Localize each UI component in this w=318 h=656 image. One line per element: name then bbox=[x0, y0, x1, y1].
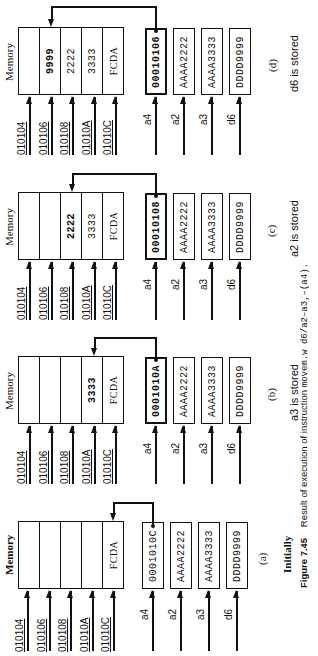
register-arrow bbox=[155, 97, 157, 155]
pointer-line bbox=[155, 6, 157, 31]
address-label: 01010A bbox=[81, 450, 92, 484]
memory-value: FCDA bbox=[108, 541, 119, 570]
address-arrow bbox=[51, 262, 53, 320]
arrow-head-icon bbox=[110, 513, 116, 521]
register-arrow bbox=[183, 97, 185, 155]
pointer-line bbox=[94, 337, 156, 339]
register-arrow bbox=[239, 262, 241, 320]
address-arrow bbox=[72, 97, 74, 155]
memory-cell-01010A: 3333 bbox=[82, 193, 103, 259]
register-label: a2 bbox=[167, 609, 178, 620]
address-arrow bbox=[72, 262, 74, 320]
memory-value: 3333 bbox=[87, 377, 98, 403]
pointer-line bbox=[155, 173, 157, 196]
memory-cell-010106 bbox=[40, 522, 61, 588]
memory-cell-010108: 2222 bbox=[61, 193, 82, 259]
register-value: AAAA2222 bbox=[179, 364, 190, 416]
register-d6: DDDD9999 bbox=[229, 357, 251, 424]
address-label: 010108 bbox=[59, 287, 70, 320]
address-label: 010108 bbox=[57, 619, 68, 652]
memory-value: FCDA bbox=[108, 47, 119, 76]
figure-caption-text: Result of execution of instruction bbox=[298, 390, 309, 527]
memory-value: 2222 bbox=[66, 48, 77, 74]
register-value: AAAA2222 bbox=[179, 35, 190, 87]
register-label: a2 bbox=[170, 279, 181, 290]
register-value: AAAA3333 bbox=[204, 529, 215, 581]
register-a2: AAAA2222 bbox=[173, 357, 195, 424]
memory-cell-010104 bbox=[19, 28, 40, 94]
register-arrow bbox=[239, 426, 241, 484]
memory-title: Memory bbox=[3, 43, 15, 81]
arrow-head-icon bbox=[69, 184, 75, 192]
register-value: DDDD9999 bbox=[232, 529, 243, 581]
memory-block: 9999 2222 3333 FCDA bbox=[18, 27, 124, 95]
address-label: 010104 bbox=[16, 122, 27, 155]
address-arrow bbox=[49, 591, 51, 651]
memory-value: 3333 bbox=[87, 213, 98, 239]
address-arrow bbox=[113, 591, 115, 651]
memory-cell-01010C: FCDA bbox=[103, 357, 123, 423]
register-value: DDDD9999 bbox=[235, 364, 246, 416]
register-value: 00010106 bbox=[151, 35, 162, 87]
address-label: 01010A bbox=[81, 286, 92, 320]
memory-cell-01010A: 3333 bbox=[82, 28, 103, 94]
register-arrow bbox=[211, 426, 213, 484]
arrow-head-icon bbox=[91, 348, 97, 356]
address-arrow bbox=[27, 591, 29, 651]
register-value: DDDD9999 bbox=[235, 35, 246, 87]
address-label: 01010C bbox=[102, 449, 113, 484]
register-value: AAAA3333 bbox=[207, 200, 218, 252]
register-arrow bbox=[208, 591, 210, 651]
register-value: 0001010A bbox=[151, 364, 162, 416]
register-value: 0001010C bbox=[148, 529, 159, 581]
register-a4: 0001010A bbox=[145, 357, 167, 424]
register-label: a3 bbox=[198, 279, 209, 290]
register-label: a2 bbox=[170, 443, 181, 454]
register-a3: AAAA3333 bbox=[201, 357, 223, 424]
register-a2: AAAA2222 bbox=[173, 28, 195, 95]
address-label: 010106 bbox=[38, 287, 49, 320]
panel-a: Memory FCDA 0001010C AAAA2222 AAAA3333 D… bbox=[0, 521, 318, 656]
memory-title: Memory bbox=[3, 372, 15, 410]
figure-instruction: movem.w d6/a2–a3,–(a4). bbox=[300, 263, 310, 387]
memory-cell-010108: 2222 bbox=[61, 28, 82, 94]
register-arrow bbox=[155, 262, 157, 320]
pointer-line bbox=[51, 6, 53, 20]
address-arrow bbox=[72, 426, 74, 484]
register-a3: AAAA3333 bbox=[201, 193, 223, 260]
memory-cell-01010C: FCDA bbox=[103, 28, 123, 94]
address-label: 01010C bbox=[102, 285, 113, 320]
register-label: a4 bbox=[142, 279, 153, 290]
memory-value: 3333 bbox=[87, 48, 98, 74]
address-arrow bbox=[115, 426, 117, 484]
register-value: DDDD9999 bbox=[235, 200, 246, 252]
address-label: 01010C bbox=[100, 617, 111, 652]
register-arrow bbox=[152, 591, 154, 651]
panel-label: (c) bbox=[265, 225, 277, 237]
memory-block: 3333 FCDA bbox=[18, 356, 124, 424]
register-label: a4 bbox=[142, 114, 153, 125]
register-label: a2 bbox=[170, 114, 181, 125]
panel-caption: a2 is stored bbox=[288, 200, 300, 257]
memory-value: 9999 bbox=[45, 48, 56, 74]
memory-value: FCDA bbox=[108, 212, 119, 241]
panel-caption: d6 is stored bbox=[288, 35, 300, 92]
memory-block: 2222 3333 FCDA bbox=[18, 192, 124, 260]
register-arrow bbox=[183, 262, 185, 320]
register-arrow bbox=[239, 97, 241, 155]
address-arrow bbox=[29, 262, 31, 320]
register-label: a4 bbox=[139, 609, 150, 620]
address-label: 010108 bbox=[59, 122, 70, 155]
pointer-line bbox=[152, 502, 154, 526]
register-value: 00010108 bbox=[151, 200, 162, 252]
address-label: 010104 bbox=[16, 451, 27, 484]
panel-label: (b) bbox=[265, 388, 277, 401]
register-arrow bbox=[211, 262, 213, 320]
panel-c: Memory 2222 3333 FCDA 00010108 AAAA2222 … bbox=[0, 192, 318, 352]
address-label: 010106 bbox=[36, 619, 47, 652]
panel-label: (d) bbox=[266, 59, 278, 72]
memory-cell-010108 bbox=[61, 357, 82, 423]
register-arrow bbox=[183, 426, 185, 484]
address-label: 010104 bbox=[16, 287, 27, 320]
memory-title: Memory bbox=[3, 208, 15, 246]
